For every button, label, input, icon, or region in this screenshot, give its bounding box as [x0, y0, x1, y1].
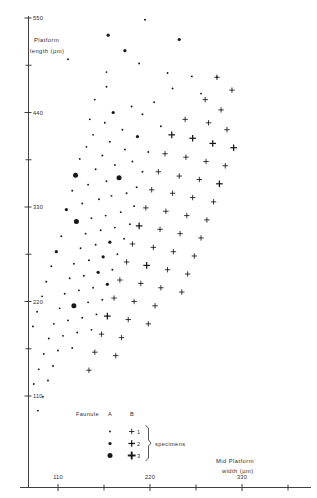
data-point-dot [71, 190, 73, 192]
data-point-dot [80, 247, 82, 249]
data-point-plus [170, 191, 175, 196]
data-point-dot [104, 122, 106, 124]
data-point-dot [142, 171, 144, 173]
data-point-plus [206, 120, 211, 125]
data-point-plus [131, 299, 136, 304]
scatter-plot-figure: 110220330440550 Platform length (µm) 110… [0, 0, 317, 498]
data-point-dot [147, 151, 149, 153]
legend-brace [146, 426, 152, 462]
legend-column-b: B [130, 411, 134, 417]
data-point-dot [37, 410, 39, 412]
data-point-dot [43, 353, 45, 355]
data-point-dot [78, 289, 80, 291]
y-axis-tick-labels: 110220330440550 [33, 15, 43, 399]
data-point-plus [158, 285, 163, 290]
data-point-plus [177, 231, 182, 236]
legend-plus-2 [128, 440, 135, 447]
legend-plus-3 [128, 452, 136, 460]
data-point-plus [204, 217, 209, 222]
data-point-dot [85, 146, 87, 148]
data-point-dot [62, 335, 64, 337]
data-point-plus [149, 187, 154, 192]
data-point-dot [167, 72, 169, 74]
y-axis-title-line1: Platform [34, 37, 59, 43]
data-point-dot [129, 223, 131, 225]
data-point-dot [33, 383, 35, 385]
data-point-dot [69, 277, 71, 279]
data-point-dot [96, 313, 98, 315]
data-point-dot [74, 219, 79, 224]
data-point-dot [55, 250, 58, 253]
x-axis: 110220330 Mid Platform width (µm) [20, 458, 311, 491]
data-point-plus [138, 281, 143, 286]
data-point-plus [183, 154, 188, 159]
data-point-dot [131, 161, 133, 163]
legend-dot-1 [109, 431, 111, 433]
legend-count-2: 2 [137, 441, 140, 447]
legend-column-a: A [108, 411, 112, 417]
data-point-dot [153, 101, 155, 103]
data-point-plus [151, 245, 156, 250]
legend: Faunule A B 1 2 3 [76, 411, 185, 461]
data-point-plus [146, 321, 151, 326]
data-point-plus [136, 223, 143, 230]
data-point-dot [73, 173, 78, 178]
data-point-dot [106, 86, 108, 88]
data-point-dot [114, 227, 116, 229]
y-tick-label: 550 [33, 15, 43, 21]
data-point-dot [71, 347, 73, 349]
y-axis-ticks [25, 18, 32, 396]
data-point-dot [67, 319, 69, 321]
data-point-plus [157, 227, 162, 232]
data-point-plus [229, 87, 234, 92]
data-point-dot [191, 75, 193, 77]
data-point-dot [32, 325, 34, 327]
data-point-dot [160, 125, 162, 127]
y-tick-label: 110 [33, 393, 43, 399]
data-point-plus [119, 335, 124, 340]
data-point-plus [203, 159, 208, 164]
data-point-dot [91, 217, 93, 219]
data-point-dot [85, 233, 87, 235]
data-point-dot [111, 269, 113, 271]
data-point-dot [138, 63, 140, 65]
data-point-plus [203, 97, 208, 102]
data-point-dot [71, 303, 76, 308]
data-point-dot [123, 49, 126, 52]
data-point-plus [163, 209, 168, 214]
data-point-dot [41, 295, 43, 297]
x-axis-title-line2: width (µm) [221, 468, 254, 474]
data-point-dot [92, 134, 94, 136]
data-point-dot [107, 34, 110, 37]
data-point-plus [216, 181, 223, 188]
data-point-plus [124, 259, 129, 264]
data-point-plus [162, 151, 167, 156]
data-point-plus [165, 267, 170, 272]
x-axis-tick-labels: 110220330 [53, 474, 247, 480]
data-point-dot [123, 238, 125, 240]
legend-plus-1 [129, 429, 134, 434]
data-point-dot [42, 396, 44, 398]
data-point-dot [106, 180, 108, 182]
data-point-plus [209, 140, 216, 147]
data-point-dot [60, 235, 62, 237]
data-point-plus [111, 295, 116, 300]
series-faunule-a [32, 19, 218, 412]
data-point-dot [121, 129, 123, 131]
data-point-dot [36, 311, 38, 313]
data-point-plus [168, 132, 175, 139]
data-point-dot [106, 71, 108, 73]
data-point-plus [117, 277, 122, 282]
data-point-dot [87, 301, 89, 303]
data-point-plus [177, 173, 182, 178]
data-point-plus [197, 177, 202, 182]
data-point-dot [47, 380, 49, 382]
data-point-dot [67, 58, 69, 60]
data-point-dot [45, 281, 47, 283]
data-point-plus [86, 368, 91, 373]
data-point-dot [172, 88, 174, 90]
data-point-dot [200, 93, 202, 95]
data-point-dot [133, 205, 135, 207]
data-point-plus [92, 349, 97, 354]
data-point-plus [214, 75, 219, 80]
